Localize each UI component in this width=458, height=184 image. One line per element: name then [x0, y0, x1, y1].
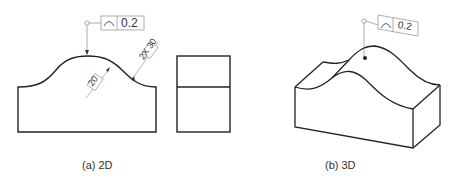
- caption-2d: (a) 2D: [82, 159, 113, 171]
- leader-line-2d: [85, 21, 101, 54]
- arrowhead-icon: [85, 50, 89, 55]
- point-marker-icon: [363, 56, 367, 60]
- isometric-view: [295, 46, 440, 148]
- caption-3d: (b) 3D: [325, 159, 356, 171]
- side-view: [177, 56, 230, 132]
- arrowhead-icon: [106, 67, 110, 72]
- tolerance-value-2d: 0.2: [121, 16, 138, 30]
- leader-line-3d: [362, 19, 378, 56]
- drawing-canvas: [0, 0, 458, 184]
- tolerance-value-3d: 0.2: [397, 19, 412, 32]
- front-view: [18, 56, 156, 132]
